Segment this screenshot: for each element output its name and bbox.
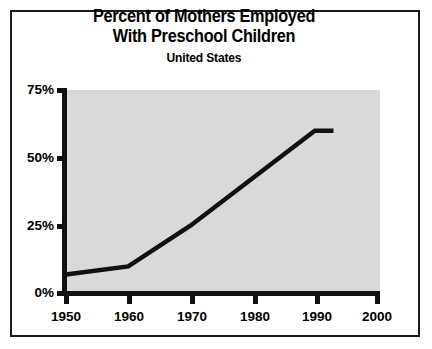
x-axis-tick-1960: [127, 294, 132, 304]
y-axis-tick-25: [57, 224, 66, 229]
y-axis-tick-label-25: 25%: [0, 218, 54, 233]
x-axis-tick-label-1980: 1980: [225, 309, 285, 324]
y-axis-tick-50: [57, 156, 66, 161]
x-axis-tick-label-1990: 1990: [287, 309, 347, 324]
x-axis-tick-2000: [375, 294, 380, 304]
x-axis-tick-label-1970: 1970: [162, 309, 222, 324]
x-axis-tick-label-2000: 2000: [347, 309, 407, 324]
chart-figure: Percent of Mothers Employed With Prescho…: [0, 0, 432, 349]
x-axis-tick-1980: [253, 294, 258, 304]
x-axis-tick-1990: [315, 294, 320, 304]
x-axis-tick-label-1950: 1950: [36, 309, 96, 324]
y-axis-line: [62, 88, 67, 296]
plot-area: [66, 90, 380, 294]
x-axis-tick-label-1960: 1960: [99, 309, 159, 324]
x-axis-line: [62, 291, 380, 296]
y-axis-tick-75: [57, 88, 66, 93]
y-axis-tick-label-0: 0%: [0, 285, 54, 300]
y-axis-tick-label-75: 75%: [0, 82, 54, 97]
plot-wrapper: 75% 50% 25% 0% 1950 1960 1970 1980 1990 …: [0, 0, 432, 349]
x-axis-tick-1950: [64, 294, 69, 304]
y-axis-tick-label-50: 50%: [0, 150, 54, 165]
x-axis-tick-1970: [190, 294, 195, 304]
